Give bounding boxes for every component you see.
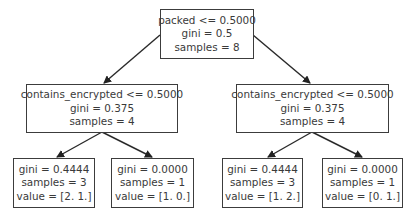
- tree-node-root: packed <= 0.5000 gini = 0.5 samples = 8: [160, 9, 254, 59]
- node-samples: samples = 3: [230, 176, 295, 190]
- node-samples: samples = 1: [120, 176, 185, 190]
- edge-left-leaf-ll: [57, 132, 102, 157]
- tree-leaf-left-left: gini = 0.4444 samples = 3 value = [2. 1.…: [13, 158, 95, 208]
- edge-root-left: [104, 35, 160, 83]
- node-gini: gini = 0.0000: [327, 163, 398, 177]
- edge-root-right: [253, 35, 310, 83]
- node-samples: samples = 4: [69, 115, 134, 129]
- tree-leaf-right-right: gini = 0.0000 samples = 1 value = [0. 1.…: [322, 158, 403, 208]
- tree-leaf-left-right: gini = 0.0000 samples = 1 value = [1. 0.…: [111, 158, 194, 208]
- tree-leaf-right-left: gini = 0.4444 samples = 3 value = [1. 2.…: [222, 158, 303, 208]
- node-value: value = [1. 0.]: [115, 190, 190, 204]
- node-condition: contains_encrypted <= 0.5000: [21, 88, 183, 102]
- node-gini: gini = 0.375: [280, 102, 344, 116]
- edge-right-leaf-rr: [312, 132, 362, 157]
- node-gini: gini = 0.4444: [19, 163, 90, 177]
- node-value: value = [0. 1.]: [325, 190, 400, 204]
- node-value: value = [1. 2.]: [225, 190, 300, 204]
- tree-node-right: contains_encrypted <= 0.5000 gini = 0.37…: [236, 84, 389, 133]
- node-samples: samples = 1: [330, 176, 395, 190]
- node-condition: contains_encrypted <= 0.5000: [231, 88, 393, 102]
- node-samples: samples = 4: [280, 115, 345, 129]
- edge-right-leaf-rl: [268, 132, 312, 157]
- node-samples: samples = 3: [21, 176, 86, 190]
- node-gini: gini = 0.375: [70, 102, 134, 116]
- node-gini: gini = 0.0000: [117, 163, 188, 177]
- node-condition: packed <= 0.5000: [158, 14, 256, 28]
- tree-node-left: contains_encrypted <= 0.5000 gini = 0.37…: [26, 84, 178, 133]
- edge-left-leaf-lr: [102, 132, 152, 157]
- node-samples: samples = 8: [174, 41, 239, 55]
- node-gini: gini = 0.4444: [227, 163, 298, 177]
- node-value: value = [2. 1.]: [17, 190, 92, 204]
- node-gini: gini = 0.5: [182, 27, 233, 41]
